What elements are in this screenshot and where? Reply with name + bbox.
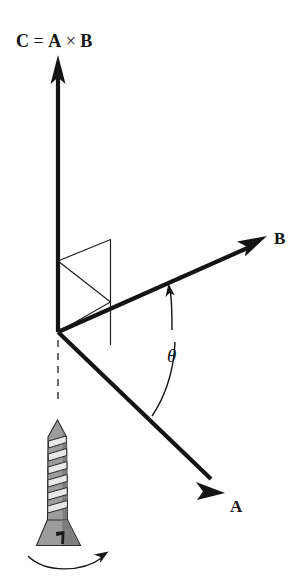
label-equals: = [34, 31, 44, 51]
vector-b-shaft [58, 246, 252, 332]
vector-a-group [58, 332, 225, 500]
diagram-canvas: C = A × B B A θ [0, 0, 302, 581]
curved-rotation-arrow-icon [28, 552, 109, 569]
rotation-arc [28, 556, 103, 569]
label-b-symbol: B [80, 31, 92, 51]
screw-head-shading [62, 521, 80, 545]
vector-a-shaft [58, 332, 211, 479]
angle-theta-label: θ [167, 345, 176, 366]
label-a-symbol: A [48, 31, 61, 51]
vector-b-group [58, 236, 267, 332]
parallelogram-diagonal [58, 261, 111, 302]
screw-icon [37, 420, 81, 546]
cross-product-diagram: C = A × B B A θ [0, 0, 302, 581]
arrowhead-upright-icon [237, 236, 267, 257]
theta-arc-upper [170, 290, 172, 330]
vector-c-group [51, 55, 66, 332]
label-c-symbol: C [16, 31, 29, 51]
arrowhead-downright-icon [196, 482, 225, 500]
label-cross-symbol: × [66, 31, 76, 51]
vector-b-label: B [274, 229, 285, 248]
vector-a-label: A [230, 497, 243, 516]
vector-c-label: C = A × B [16, 31, 92, 51]
